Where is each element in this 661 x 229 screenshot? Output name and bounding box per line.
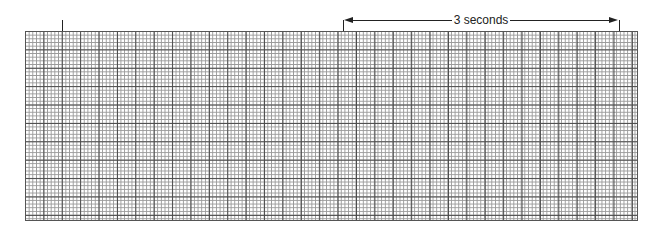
ecg-grid-strip — [25, 31, 638, 221]
arrow-right-icon — [609, 17, 618, 23]
interval-label: 3 seconds — [452, 12, 510, 28]
